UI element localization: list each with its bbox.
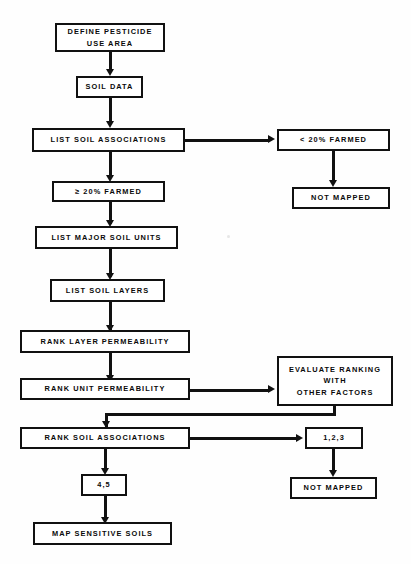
- node-list-major-soil-units[interactable]: LIST MAJOR SOIL UNITS: [35, 226, 178, 249]
- arrowhead-soildata-to-listassoc: [106, 121, 114, 128]
- arrowhead-listassoc-to-lessthan20: [268, 135, 275, 143]
- node-label-line-3: OTHER FACTORS: [297, 387, 374, 398]
- node-label: LIST SOIL LAYERS: [66, 285, 149, 296]
- node-label: 4,5: [97, 479, 110, 490]
- edge-listassoc-to-lessthan20: [185, 139, 270, 142]
- edge-lessthan20-to-notmapped: [332, 150, 335, 182]
- node-evaluate-ranking[interactable]: EVALUATE RANKING WITH OTHER FACTORS: [277, 356, 393, 406]
- arrowhead-rankassoc-to-classes123: [296, 434, 303, 442]
- node-label: LIST MAJOR SOIL UNITS: [51, 232, 161, 243]
- arrowhead-lessthan20-to-notmapped: [329, 180, 337, 187]
- scan-speck: [227, 235, 230, 238]
- node-label: RANK LAYER PERMEABILITY: [41, 336, 170, 347]
- node-list-soil-associations[interactable]: LIST SOIL ASSOCIATIONS: [32, 128, 185, 152]
- node-classes-45[interactable]: 4,5: [81, 474, 127, 496]
- node-gte-20-farmed[interactable]: ≥ 20% FARMED: [52, 181, 165, 202]
- node-label: LIST SOIL ASSOCIATIONS: [51, 134, 167, 145]
- arrowhead-define-to-soildata: [106, 69, 114, 76]
- edge-listassoc-to-gte20: [109, 152, 112, 177]
- node-not-mapped-lower[interactable]: NOT MAPPED: [290, 477, 377, 499]
- node-label: ≥ 20% FARMED: [75, 186, 142, 197]
- edge-soildata-to-listassoc: [109, 98, 112, 123]
- node-label: NOT MAPPED: [311, 192, 371, 203]
- node-soil-data[interactable]: SOIL DATA: [76, 76, 143, 98]
- node-label-line-2: USE AREA: [87, 38, 133, 49]
- node-rank-soil-associations[interactable]: RANK SOIL ASSOCIATIONS: [20, 427, 190, 449]
- node-define-pesticide-use-area[interactable]: DEFINE PESTICIDE USE AREA: [55, 23, 165, 52]
- node-label: 1,2,3: [323, 432, 345, 443]
- node-rank-layer-permeability[interactable]: RANK LAYER PERMEABILITY: [20, 330, 190, 353]
- node-rank-unit-permeability[interactable]: RANK UNIT PERMEABILITY: [20, 378, 190, 400]
- node-not-mapped-upper[interactable]: NOT MAPPED: [292, 187, 390, 209]
- edge-classes123-to-notmapped: [332, 448, 335, 472]
- node-label-line-1: DEFINE PESTICIDE: [68, 26, 153, 37]
- edge-evaluate-left: [105, 413, 336, 416]
- node-classes-123[interactable]: 1,2,3: [305, 427, 363, 449]
- node-label-line-1: EVALUATE RANKING: [289, 364, 381, 375]
- node-map-sensitive-soils[interactable]: MAP SENSITIVE SOILS: [33, 522, 172, 545]
- arrowhead-rankunit-to-evaluate: [268, 385, 275, 393]
- node-label: < 20% FARMED: [300, 134, 367, 145]
- node-label: SOIL DATA: [85, 81, 133, 92]
- node-list-soil-layers[interactable]: LIST SOIL LAYERS: [50, 279, 165, 302]
- node-less-than-20-farmed[interactable]: < 20% FARMED: [277, 129, 390, 151]
- edge-define-to-soildata: [109, 51, 112, 71]
- node-label: RANK UNIT PERMEABILITY: [45, 383, 166, 394]
- arrowhead-classes123-to-notmapped: [329, 470, 337, 477]
- edge-rankassoc-to-classes45: [104, 448, 107, 470]
- flowchart-canvas: DEFINE PESTICIDE USE AREA SOIL DATA LIST…: [0, 0, 411, 564]
- node-label: MAP SENSITIVE SOILS: [52, 528, 153, 539]
- node-label: NOT MAPPED: [304, 482, 364, 493]
- node-label-line-2: WITH: [323, 375, 346, 386]
- edge-rankassoc-to-classes123: [190, 437, 298, 440]
- node-label: RANK SOIL ASSOCIATIONS: [44, 432, 165, 443]
- edge-rankunit-to-evaluate: [190, 389, 270, 392]
